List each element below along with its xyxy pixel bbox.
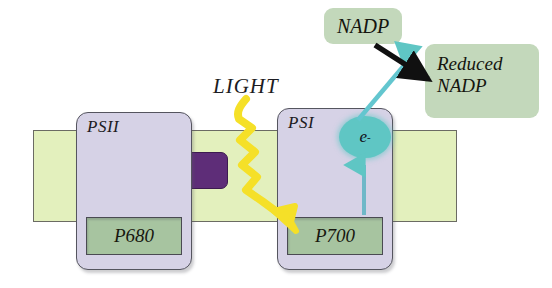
arrow-overlay — [0, 0, 552, 288]
diagram-canvas: PSII P680 PSI P700 e- NADP Reduced NADP … — [0, 0, 552, 288]
nadp-reduction-arrow — [375, 45, 428, 79]
light-arrow — [238, 99, 296, 231]
